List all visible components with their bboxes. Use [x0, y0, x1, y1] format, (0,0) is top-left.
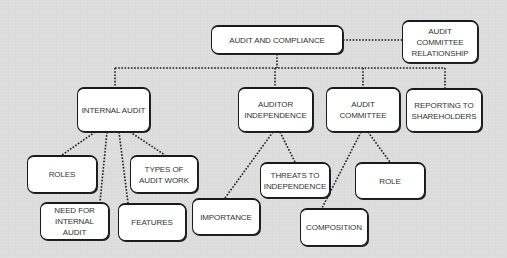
node-importance: IMPORTANCE: [192, 198, 260, 235]
node-features: FEATURES: [118, 203, 186, 241]
node-composition: COMPOSITION: [300, 208, 368, 246]
node-roles: ROLES: [27, 155, 97, 193]
node-audit-and-compliance: AUDIT AND COMPLIANCE: [211, 25, 343, 54]
node-need-for-internal-audit: NEED FOR INTERNAL AUDIT: [40, 202, 109, 240]
node-audit-committee: AUDIT COMMITTEE: [326, 87, 400, 132]
node-role: ROLE: [355, 162, 425, 199]
node-types-of-audit-work: TYPES OF AUDIT WORK: [130, 155, 198, 193]
node-auditor-independence: AUDITOR INDEPENDENCE: [238, 87, 313, 132]
node-internal-audit: INTERNAL AUDIT: [77, 87, 150, 132]
node-reporting-to-shareholders: REPORTING TO SHAREHOLDERS: [406, 88, 482, 132]
node-audit-committee-relationship: AUDIT COMMITTEE RELATIONSHIP: [402, 20, 478, 63]
node-threats-to-independence: THREATS TO INDEPENDENCE: [260, 162, 330, 198]
